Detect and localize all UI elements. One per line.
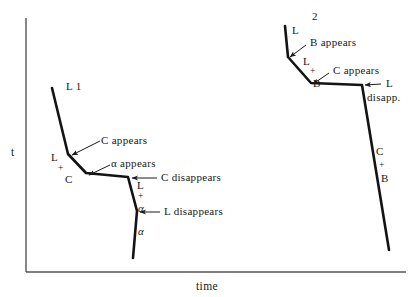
annotation-l-disapp-line2: disapp. xyxy=(367,92,401,103)
y-axis-label: t xyxy=(11,146,15,158)
phase-label-C-plus-B-C: C xyxy=(376,146,384,157)
phase-label-L-plus-C-L: L xyxy=(51,152,59,163)
phase-label-L-plus-C-C: C xyxy=(65,174,73,185)
cooling-curve-diagram: t time L 1 C appears α appears C disappe… xyxy=(0,0,419,297)
annotation-c-disappears: C disappears xyxy=(161,172,221,183)
annotation-c-appears-left: C appears xyxy=(101,135,147,146)
annotation-alpha-appears: α appears xyxy=(111,158,156,169)
curve-L2-group xyxy=(285,26,389,250)
phase-label-alpha: α xyxy=(138,226,144,237)
annotation-c-appears-right: C appears xyxy=(333,65,379,76)
annotation-l-disappears: L disappears xyxy=(164,206,223,217)
phase-label-C-plus-B: C + B xyxy=(376,146,384,178)
curve-L2-label-superscript: 2 xyxy=(312,11,318,22)
phase-label-L-plus-alpha-L: L xyxy=(137,180,144,191)
phase-label-C-plus-B-plus: + xyxy=(379,161,387,171)
phase-label-L-plus-B-B: B xyxy=(313,78,321,89)
annotation-l-disapp: L disapp. xyxy=(386,78,419,100)
axes-group xyxy=(26,18,406,272)
x-axis-label: time xyxy=(196,280,218,292)
phase-label-L-plus-alpha: L + α xyxy=(137,180,144,212)
curve-L1-label: L 1 xyxy=(66,81,81,92)
phase-label-L-plus-B: L + B xyxy=(303,56,311,88)
annotation-b-appears: B appears xyxy=(310,37,356,48)
annotation-l-disapp-line1: L xyxy=(386,78,419,89)
phase-label-L-plus-alpha-plus: + xyxy=(138,192,145,202)
leader-l-disapp xyxy=(365,84,381,85)
phase-label-L-plus-C: L + C xyxy=(51,152,59,184)
leader-c-appears-left xyxy=(72,141,100,155)
phase-label-L-plus-B-plus: + xyxy=(310,67,318,77)
phase-label-L-plus-alpha-alpha: α xyxy=(138,203,145,214)
phase-label-C-plus-B-B: B xyxy=(381,173,389,184)
curve-L2-path xyxy=(285,26,389,250)
curve-L2-label-main: L xyxy=(292,25,299,36)
